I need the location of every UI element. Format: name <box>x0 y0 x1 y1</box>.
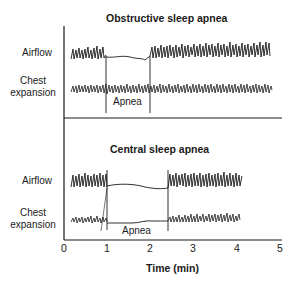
central-apnea-start-slant <box>101 188 107 231</box>
obstructive-airflow-trace-pre <box>71 46 106 59</box>
central-chest-apnea-flat <box>107 221 168 223</box>
obstructive-airflow-trace-post <box>150 42 270 58</box>
diagram-graphics <box>0 0 295 285</box>
central-airflow-trace-pre <box>71 173 107 187</box>
central-airflow-trace-post <box>168 172 242 188</box>
obstructive-chest-trace <box>71 84 272 94</box>
central-chest-trace-pre <box>71 216 107 223</box>
central-chest-trace-post <box>168 213 240 222</box>
obstructive-airflow-apnea-flat <box>106 56 150 60</box>
central-airflow-apnea-flat <box>107 184 168 188</box>
